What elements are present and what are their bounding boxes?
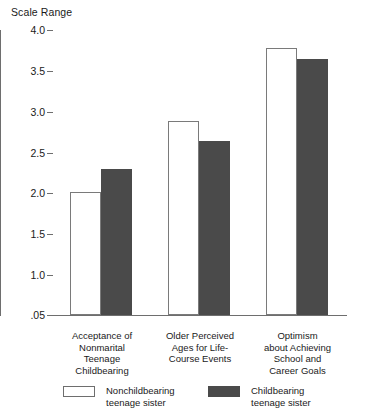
- category-label-3-line2: about Achieving: [264, 342, 331, 353]
- category-label-2-line1: Older Perceived: [166, 330, 234, 341]
- bar-older-ages-childbearing[interactable]: [199, 141, 230, 315]
- category-label-2-line2: Ages for Life-: [172, 342, 229, 353]
- y-axis-tick-mark: [47, 234, 53, 235]
- bar-acceptance-childbearing[interactable]: [101, 169, 132, 315]
- legend-label-nonchildbearing: Nonchildbearingteenage sister: [106, 385, 175, 409]
- legend-label-nonchildbearing-line2: teenage sister: [106, 397, 166, 408]
- y-axis-title: Scale Range: [11, 6, 72, 18]
- legend-item-nonchildbearing[interactable]: Nonchildbearingteenage sister: [63, 385, 175, 409]
- y-axis-tick-mark: [47, 112, 53, 113]
- legend-label-childbearing-line2: teenage sister: [251, 397, 311, 408]
- y-axis-tick-label: 4.0: [30, 25, 45, 36]
- y-axis-tick-label: 3.5: [30, 66, 45, 77]
- y-axis-tick-label: 2.0: [30, 188, 45, 199]
- y-axis-tick-mark: [47, 275, 53, 276]
- scale-range-bar-chart: Scale Range 4.03.53.02.52.01.51.0.05 Acc…: [0, 0, 376, 420]
- legend-swatch-dark-icon: [208, 386, 240, 397]
- y-axis-tick-mark: [47, 153, 53, 154]
- category-label-2-line3: Course Events: [169, 353, 231, 364]
- bar-older-ages-nonchildbearing[interactable]: [168, 121, 199, 315]
- legend-swatch-light-icon: [63, 386, 95, 397]
- legend-label-childbearing: Childbearingteenage sister: [251, 385, 311, 409]
- category-label-3: Optimismabout AchievingSchool andCareer …: [240, 330, 355, 376]
- y-axis-tick-label: 3.0: [30, 107, 45, 118]
- category-label-1-line1: Acceptance of: [72, 330, 132, 341]
- y-axis-tick-label: .05: [30, 310, 45, 321]
- bar-optimism-nonchildbearing[interactable]: [266, 48, 297, 315]
- category-label-1-line2: Nonmarital: [79, 342, 125, 353]
- y-axis-tick-mark: [47, 315, 53, 316]
- y-axis-line: [0, 30, 1, 316]
- y-axis-tick-mark: [47, 30, 53, 31]
- category-label-3-line4: Career Goals: [269, 365, 326, 376]
- legend-label-nonchildbearing-line1: Nonchildbearing: [106, 385, 175, 396]
- category-label-1-line3: Teenage: [84, 353, 120, 364]
- y-axis-tick-label: 2.5: [30, 148, 45, 159]
- category-label-3-line1: Optimism: [277, 330, 317, 341]
- category-label-1: Acceptance ofNonmaritalTeenageChildbeari…: [46, 330, 158, 376]
- category-label-1-line4: Childbearing: [75, 365, 128, 376]
- legend-label-childbearing-line1: Childbearing: [251, 385, 304, 396]
- y-axis-tick-label: 1.5: [30, 229, 45, 240]
- legend-item-childbearing[interactable]: Childbearingteenage sister: [208, 385, 311, 409]
- y-axis-tick-mark: [47, 193, 53, 194]
- chart-legend: Nonchildbearingteenage sister Childbeari…: [0, 385, 376, 420]
- y-axis-tick-label: 1.0: [30, 270, 45, 281]
- category-label-3-line3: School and: [274, 353, 322, 364]
- bar-acceptance-nonchildbearing[interactable]: [70, 192, 101, 315]
- bar-optimism-childbearing[interactable]: [297, 59, 328, 315]
- x-axis-line: [47, 315, 347, 316]
- y-axis-tick-mark: [47, 71, 53, 72]
